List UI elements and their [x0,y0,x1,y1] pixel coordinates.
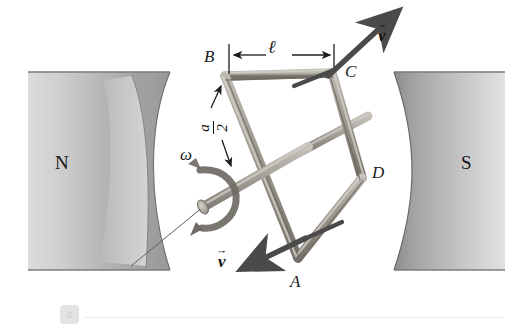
corner-label-b: B [204,47,214,67]
figure-part-label: a [60,305,79,324]
north-pole-label: N [55,152,69,174]
rotation-axle-front [195,145,308,216]
south-pole-label: S [461,152,472,174]
north-pole-magnet [28,72,170,270]
physics-diagram-svg [0,0,529,335]
corner-label-d: D [372,163,384,183]
vector-arrow-overline-icon [218,248,226,255]
velocity-label-top: v [378,26,386,46]
vector-arrow-overline-icon [378,22,386,29]
half-side-numerator: a [197,115,212,141]
half-side-dimension-label: a 2 [197,115,243,141]
angular-velocity-label: ω [180,145,192,165]
corner-label-c: C [345,62,356,82]
length-symbol-label: ℓ [268,37,276,58]
corner-label-a: A [290,272,300,292]
south-pole-magnet [394,72,505,270]
footer-divider [84,317,504,318]
figure-canvas: N S B C D A ℓ ω a 2 v v a [0,0,529,335]
half-side-denominator: 2 [215,115,230,141]
velocity-label-bottom: v [218,252,226,272]
